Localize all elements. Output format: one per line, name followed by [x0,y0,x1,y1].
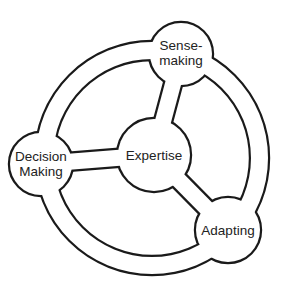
hub-label-expertise: Expertise [126,148,182,163]
node-label-decision-making: Decision Making [15,149,67,179]
cycle-diagram [0,0,281,281]
node-label-sensemaking: Sense- making [159,38,203,68]
node-label-adapting: Adapting [201,223,254,238]
